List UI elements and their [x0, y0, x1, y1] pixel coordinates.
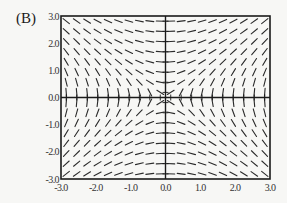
- x-tick-label: 1.0: [195, 182, 206, 193]
- x-tick-label: -2.0: [89, 182, 103, 193]
- y-tick-label: 1.0: [48, 65, 59, 76]
- y-tick-label: -1.0: [46, 119, 60, 130]
- y-tick-label: 0.0: [48, 92, 59, 103]
- x-tick-label: 2.0: [230, 182, 241, 193]
- y-tick-label: 2.0: [48, 38, 59, 49]
- x-tick-label: 3.0: [265, 182, 276, 193]
- y-tick-label: 3.0: [48, 11, 59, 22]
- x-tick-label: 0.0: [160, 182, 171, 193]
- y-tick-label: -2.0: [46, 146, 60, 157]
- axes: [61, 16, 270, 179]
- slope-field-plot: -3.0-2.0-1.00.01.02.03.0-3.0-2.0-1.00.01…: [0, 0, 287, 203]
- y-tick-label: -3.0: [46, 174, 60, 185]
- x-tick-label: -1.0: [124, 182, 138, 193]
